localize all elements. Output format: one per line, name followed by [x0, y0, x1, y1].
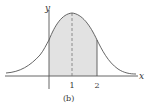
figure-caption: (b)	[63, 94, 74, 103]
tick-label-2: 2	[95, 81, 100, 90]
y-axis-label: y	[44, 3, 51, 13]
shaded-region	[49, 13, 97, 76]
x-axis-label: x	[139, 71, 144, 81]
tick-label-1: 1	[70, 81, 75, 90]
bell-curve-diagram: y x 1 2 (b)	[0, 0, 147, 111]
